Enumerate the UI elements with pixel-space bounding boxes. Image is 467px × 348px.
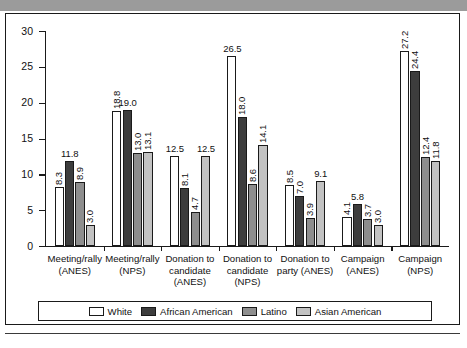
legend-label: Asian American [315,306,382,317]
bar [353,204,362,246]
x-axis-label: Meeting/rally(ANES) [43,253,107,276]
bar-value-label: 27.2 [400,31,409,49]
x-axis-group-tick [276,246,277,251]
x-axis-group-tick [219,246,220,251]
bar [306,218,315,246]
x-axis-label-line: candidate [216,265,280,277]
y-tick-mark [39,31,45,32]
bar-value-label: 11.8 [431,142,440,159]
x-axis-label-line: (ANES) [158,276,222,288]
bar [201,156,210,246]
x-axis-group-tick [391,246,392,251]
bar-value-label: 4.1 [342,202,351,215]
bar [285,185,294,246]
bar-value-label: 3.0 [85,210,94,223]
bar [55,187,64,246]
bar [431,161,440,246]
bar-group: 26.518.08.614.1 [219,31,277,246]
x-axis-group-tick [334,246,335,251]
legend-swatch [242,307,257,316]
bar-value-label: 8.3 [54,172,63,185]
bar [123,110,132,246]
legend-item: Latino [242,306,287,317]
bar-value-label: 13.0 [133,133,142,151]
bar [238,117,247,246]
x-axis-label-line: Donation to [273,253,337,265]
bar-value-label: 8.1 [180,173,189,186]
y-tick-label: 25 [7,61,33,71]
legend-label: African American [160,306,233,317]
bar [170,156,179,246]
bar-value-label: 3.7 [363,205,372,218]
x-axis-label: Donation tocandidate(NPS) [216,253,280,288]
x-axis-labels: Meeting/rally(ANES)Meeting/rally(NPS)Don… [46,253,449,299]
chart-plot-wrapper: 051015202530 8.311.88.93.018.819.013.013… [5,13,460,325]
bar-group: 18.819.013.013.1 [104,31,162,246]
y-tick-label: 5 [7,205,33,215]
bar-value-label: 24.4 [410,51,419,69]
bar [400,51,409,246]
x-axis-label-line: party (ANES) [273,265,337,277]
y-tick-label: 20 [7,97,33,107]
bar [65,161,74,246]
bar-value-label: 8.6 [248,169,257,182]
bar [180,188,189,246]
y-tick-label: 30 [7,26,33,36]
bar [143,152,152,246]
legend-item: White [89,306,133,317]
bar-group: 27.224.412.411.8 [391,31,449,246]
x-axis-label: Campaign(ANES) [331,253,395,276]
bar [133,153,142,246]
bar-value-label: 3.0 [373,210,382,223]
y-tick-mark [39,67,45,68]
x-axis-label-line: (NPS) [101,265,165,277]
bar [258,145,267,246]
bar-value-label: 12.5 [166,144,183,153]
x-axis-label-line: (ANES) [43,265,107,277]
legend-item: Asian American [296,306,382,317]
bar-value-label: 26.5 [223,44,240,53]
y-tick-label: 15 [7,133,33,143]
x-axis-label: Meeting/rally(NPS) [101,253,165,276]
bar [86,225,95,247]
y-tick-mark [39,174,45,175]
figure-page: 051015202530 8.311.88.93.018.819.013.013… [0,0,467,348]
y-tick-mark [39,139,45,140]
top-gray-band [0,0,467,11]
bar-value-label: 4.7 [190,197,199,210]
caption-divider [5,333,460,334]
x-axis-group-tick [104,246,105,251]
chart-legend: WhiteAfrican AmericanLatinoAsian America… [38,301,432,321]
x-axis-label: Donation toparty (ANES) [273,253,337,276]
bar-group: 8.57.03.99.1 [276,31,334,246]
bar-value-label: 14.1 [258,125,267,143]
bar-value-label: 7.0 [295,181,304,194]
bar [421,157,430,246]
legend-label: White [108,306,133,317]
bar-value-label: 18.0 [237,97,246,115]
x-axis-label-line: (ANES) [331,265,395,277]
legend-item: African American [141,306,233,317]
y-tick-mark [39,246,45,247]
bar [342,217,351,246]
x-axis-label-line: (NPS) [388,265,452,277]
y-tick-mark [39,103,45,104]
y-tick-mark [39,210,45,211]
x-axis-label-line: Donation to [216,253,280,265]
x-axis-label-line: Meeting/rally [43,253,107,265]
bar [410,71,419,246]
x-axis-line [45,246,449,247]
bar [363,219,372,246]
bar-group: 8.311.88.93.0 [46,31,104,246]
x-axis-label-line: Campaign [388,253,452,265]
bar-value-label: 19.0 [119,98,136,107]
x-axis-label-line: Meeting/rally [101,253,165,265]
y-tick-label: 0 [7,241,33,251]
legend-swatch [296,307,311,316]
bar-value-label: 12.5 [197,144,214,153]
bar-value-label: 8.5 [285,170,294,183]
x-axis-label-line: Donation to [158,253,222,265]
bar-value-label: 11.8 [61,149,78,158]
legend-swatch [141,307,156,316]
bar-value-label: 5.8 [349,192,366,201]
